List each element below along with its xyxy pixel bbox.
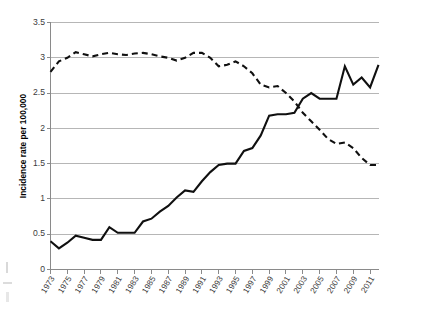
- x-tick-labels-group: 1973197519771979198119831985198719891991…: [39, 274, 376, 295]
- chart-figure: 00.511.522.533.5 19731975197719791981198…: [0, 0, 422, 311]
- x-tick-label: 1979: [90, 274, 108, 295]
- x-tick-label: 2007: [325, 274, 343, 295]
- x-tick-label: 2011: [359, 274, 376, 294]
- incidence-rate-line-chart: 00.511.522.533.5 19731975197719791981198…: [0, 0, 422, 311]
- x-tick-label: 1973: [39, 274, 57, 295]
- x-tick-label: 1987: [157, 274, 175, 295]
- x-tick-label: 1995: [224, 274, 242, 295]
- x-tick-label: 1981: [107, 274, 125, 295]
- x-tick-label: 1999: [258, 274, 276, 295]
- x-tick-label: 1991: [191, 274, 209, 295]
- cropped-caption-artifact: [6, 262, 8, 273]
- x-tick-label: 1977: [73, 274, 91, 295]
- y-tick-label: 0.5: [33, 228, 45, 238]
- y-tick-labels-group: 00.511.522.533.5: [33, 17, 45, 274]
- y-tick-label: 0: [40, 264, 45, 274]
- x-tick-label: 1997: [241, 274, 259, 295]
- x-tick-label: 2003: [292, 274, 310, 295]
- x-tick-label: 1983: [124, 274, 142, 295]
- y-axis-title: Incidence rate per 100,000: [18, 94, 28, 199]
- data-series-group: [51, 52, 379, 248]
- x-tick-label: 1985: [140, 274, 158, 295]
- x-tick-label: 1993: [208, 274, 226, 295]
- x-tick-label: 1989: [174, 274, 192, 295]
- cropped-caption-artifact: [3, 282, 12, 284]
- gridlines-group: [51, 23, 379, 270]
- y-tick-label: 3.5: [33, 17, 45, 27]
- series-solid: [51, 65, 379, 248]
- x-tick-label: 2005: [309, 274, 327, 295]
- cropped-caption-artifact: [6, 292, 9, 302]
- x-tick-label: 2001: [275, 274, 293, 295]
- y-tick-label: 1: [40, 193, 45, 203]
- x-tick-label: 2009: [342, 274, 360, 295]
- x-tick-marks-group: [51, 270, 371, 274]
- y-tick-label: 1.5: [33, 158, 45, 168]
- y-tick-label: 2.5: [33, 87, 45, 97]
- y-tick-label: 2: [40, 123, 45, 133]
- y-tick-label: 3: [40, 52, 45, 62]
- x-tick-label: 1975: [56, 274, 74, 295]
- series-dashed: [51, 52, 379, 165]
